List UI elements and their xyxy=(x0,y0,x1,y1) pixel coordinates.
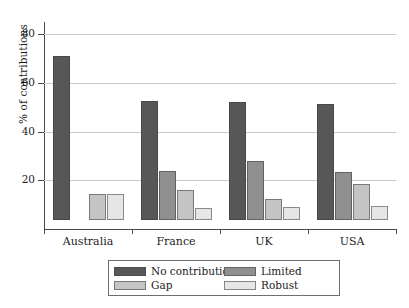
bar xyxy=(177,190,194,220)
x-axis-tick xyxy=(308,229,309,234)
legend-item-robust: Robust xyxy=(224,279,334,291)
legend-swatch-icon xyxy=(224,267,256,276)
legend-row: No contribution Limited xyxy=(114,264,334,278)
y-axis-tick-label: 60 xyxy=(22,76,35,88)
legend-swatch-icon xyxy=(224,281,256,290)
legend-label: No contribution xyxy=(151,265,236,277)
y-axis-tick-label: 20 xyxy=(22,173,35,185)
bar xyxy=(107,194,124,220)
x-axis-label: Australia xyxy=(44,235,132,248)
x-axis-tick xyxy=(396,229,397,234)
y-axis-tick: 40 xyxy=(38,132,44,133)
legend-label: Robust xyxy=(261,279,298,291)
legend-label: Limited xyxy=(261,265,302,277)
bar xyxy=(317,104,334,220)
y-axis-tick-label: 40 xyxy=(22,125,35,137)
bar xyxy=(265,199,282,220)
x-axis-tick xyxy=(220,229,221,234)
legend-swatch-icon xyxy=(114,281,146,290)
y-axis-title: % of contributions xyxy=(17,4,29,144)
bar xyxy=(247,161,264,220)
legend-row: Gap Robust xyxy=(114,278,334,292)
bar xyxy=(335,172,352,220)
bar-group xyxy=(132,22,220,220)
bar-group xyxy=(220,22,308,220)
y-axis-tick: 20 xyxy=(38,180,44,181)
x-axis-label: USA xyxy=(308,235,396,248)
x-axis-label: UK xyxy=(220,235,308,248)
x-axis-tick xyxy=(44,229,45,234)
y-axis-tick: 80 xyxy=(38,34,44,35)
legend-item-gap: Gap xyxy=(114,279,224,291)
bar xyxy=(353,184,370,220)
x-axis-tick xyxy=(132,229,133,234)
legend-label: Gap xyxy=(151,279,172,291)
bar xyxy=(229,102,246,220)
bar xyxy=(195,208,212,220)
x-axis-label: France xyxy=(132,235,220,248)
chart-legend: No contribution Limited Gap Robust xyxy=(108,260,340,296)
y-axis-tick-label: 80 xyxy=(22,27,35,39)
bar-group xyxy=(44,22,132,220)
bar xyxy=(141,101,158,220)
bar-chart: % of contributions No contribution Limit… xyxy=(0,0,409,308)
bar xyxy=(371,206,388,220)
bar-group xyxy=(308,22,396,220)
bar xyxy=(89,194,106,220)
legend-item-no-contribution: No contribution xyxy=(114,265,224,277)
legend-swatch-icon xyxy=(114,267,146,276)
bar xyxy=(53,56,70,220)
y-axis-tick: 60 xyxy=(38,83,44,84)
legend-item-limited: Limited xyxy=(224,265,334,277)
bar xyxy=(283,207,300,220)
plot-area xyxy=(44,22,396,220)
bar xyxy=(159,171,176,220)
